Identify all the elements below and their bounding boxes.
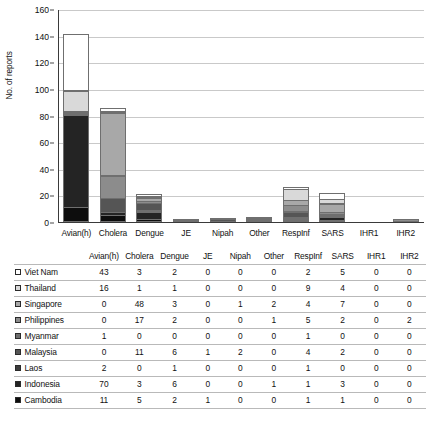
bar-segment[interactable] — [393, 219, 419, 222]
table-cell: 0 — [326, 328, 360, 344]
table-cell: 0 — [393, 280, 426, 296]
bar-segment[interactable] — [319, 220, 345, 222]
bar-group[interactable] — [314, 9, 351, 222]
bar-segment[interactable] — [63, 115, 89, 208]
country-label: Viet Nam — [25, 267, 59, 277]
y-axis-tick-label: 140 — [35, 32, 49, 41]
table-cell: 43 — [86, 264, 122, 280]
table-cell: 5 — [122, 392, 157, 408]
x-axis-category-label: JE — [168, 228, 205, 238]
table-row[interactable]: Philippines01720015202 — [14, 312, 426, 328]
table-cell: 0 — [86, 344, 122, 360]
table-cell: 0 — [257, 392, 291, 408]
y-axis-tick-label: 60 — [39, 139, 49, 148]
table-cell: 17 — [122, 312, 157, 328]
table-cell: 2 — [157, 264, 192, 280]
bar-group[interactable] — [241, 9, 278, 222]
country-label: Singapore — [25, 299, 62, 309]
table-row[interactable]: Laos2010001000 — [14, 360, 426, 376]
y-axis-tick-mark — [50, 196, 54, 197]
table-cell: 0 — [223, 280, 257, 296]
table-cell: 0 — [192, 264, 223, 280]
bar-stack[interactable] — [283, 187, 309, 222]
bar-segment[interactable] — [100, 113, 126, 177]
bar-segment[interactable] — [63, 91, 89, 112]
table-row[interactable]: Viet Nam43320002500 — [14, 264, 426, 280]
legend-swatch-icon — [15, 269, 21, 275]
bar-stack[interactable] — [246, 217, 272, 222]
y-axis-tick-label: 80 — [39, 112, 49, 121]
table-cell: 0 — [393, 392, 426, 408]
table-column-header: IHR2 — [393, 251, 426, 264]
table-row[interactable]: Indonesia70360011300 — [14, 376, 426, 392]
table-cell: 0 — [360, 264, 393, 280]
bar-segment[interactable] — [100, 176, 126, 199]
table-cell: 0 — [223, 360, 257, 376]
table-cell: 5 — [291, 312, 326, 328]
bar-group[interactable] — [58, 9, 95, 222]
legend-swatch-icon — [15, 349, 21, 355]
table-cell: 70 — [86, 376, 122, 392]
table-row[interactable]: Singapore04830124700 — [14, 296, 426, 312]
table-row[interactable]: Cambodia11521001100 — [14, 392, 426, 408]
bar-group[interactable] — [387, 9, 424, 222]
y-axis-ticks: 020406080100120140160 — [20, 10, 54, 232]
stacked-bar-chart: No. of reports 020406080100120140160 Avi… — [0, 0, 434, 246]
table-cell: 2 — [326, 344, 360, 360]
plot-area — [58, 10, 424, 223]
bar-segment[interactable] — [136, 219, 162, 222]
y-axis-tick-label: 120 — [35, 59, 49, 68]
x-axis-category-label: Other — [241, 228, 278, 238]
table-cell: 0 — [223, 392, 257, 408]
bar-group[interactable] — [204, 9, 241, 222]
table-cell: 3 — [122, 376, 157, 392]
x-axis-category-label: IHR1 — [351, 228, 388, 238]
bar-stack[interactable] — [173, 219, 199, 222]
bar-group[interactable] — [168, 9, 205, 222]
y-axis-tick-mark — [50, 89, 54, 90]
table-cell: 4 — [291, 344, 326, 360]
table-cell: 2 — [393, 312, 426, 328]
x-axis-category-label: Cholera — [95, 228, 132, 238]
bar-segment[interactable] — [100, 198, 126, 213]
bar-segment[interactable] — [210, 219, 236, 222]
bar-stack[interactable] — [100, 108, 126, 222]
table-row-header: Laos — [14, 360, 86, 376]
bar-stack[interactable] — [210, 219, 236, 222]
table-cell: 5 — [326, 264, 360, 280]
table-column-header: Nipah — [223, 251, 257, 264]
x-axis-category-label: SARS — [314, 228, 351, 238]
table-row-header: Indonesia — [14, 376, 86, 392]
bar-segment[interactable] — [246, 220, 272, 222]
table-cell: 11 — [122, 344, 157, 360]
table-cell: 9 — [291, 280, 326, 296]
bar-group[interactable] — [131, 9, 168, 222]
table-row[interactable]: Thailand16110009400 — [14, 280, 426, 296]
bar-segment[interactable] — [173, 220, 199, 222]
bar-group[interactable] — [95, 9, 132, 222]
y-axis-tick-label: 0 — [44, 219, 49, 228]
table-row[interactable]: Malaysia01161204200 — [14, 344, 426, 360]
table-cell: 1 — [192, 392, 223, 408]
table-cell: 0 — [223, 376, 257, 392]
bar-segment[interactable] — [283, 189, 309, 201]
table-row[interactable]: Myanmar1000001000 — [14, 328, 426, 344]
bar-segment[interactable] — [63, 207, 89, 222]
bar-segment[interactable] — [283, 220, 309, 222]
x-axis-category-label: RespInf — [278, 228, 315, 238]
figure-root: No. of reports 020406080100120140160 Avi… — [0, 0, 434, 425]
bar-group[interactable] — [278, 9, 315, 222]
table-cell: 0 — [393, 344, 426, 360]
table-cell: 0 — [86, 312, 122, 328]
bar-stack[interactable] — [319, 194, 345, 222]
bar-stack[interactable] — [63, 35, 89, 222]
table-column-header: Avian(h) — [86, 251, 122, 264]
bar-group[interactable] — [351, 9, 388, 222]
bar-segment[interactable] — [100, 215, 126, 222]
bar-stack[interactable] — [393, 220, 419, 222]
table-column-header: Other — [257, 251, 291, 264]
table-cell: 6 — [157, 344, 192, 360]
table-cell: 0 — [326, 360, 360, 376]
bar-stack[interactable] — [136, 195, 162, 222]
bar-segment[interactable] — [63, 34, 89, 91]
